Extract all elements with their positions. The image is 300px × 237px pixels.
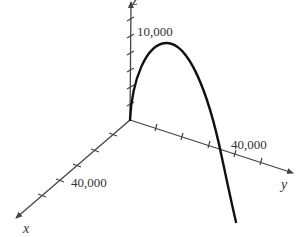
y-axis	[130, 120, 293, 173]
x-axis-label: x	[23, 222, 29, 236]
x-tick-label: 40,000	[71, 176, 107, 189]
y-axis-label: y	[281, 178, 287, 192]
y-tick-label: 40,000	[231, 138, 267, 151]
trajectory-curve	[130, 43, 236, 222]
z-axis-label: z	[132, 0, 137, 8]
chart-canvas: z 10,000 40,000 y 40,000 x	[0, 0, 300, 237]
x-axis	[16, 120, 130, 218]
z-tick-label: 10,000	[137, 25, 173, 38]
